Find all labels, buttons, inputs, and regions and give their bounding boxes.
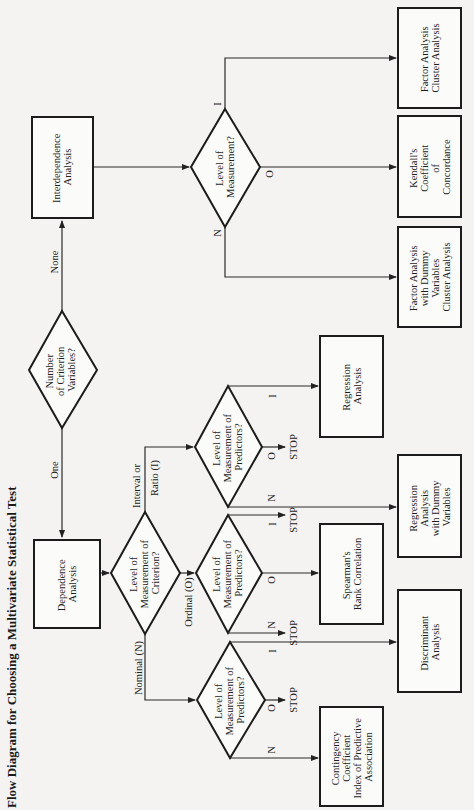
edge-interdep-i bbox=[225, 58, 396, 109]
decision-predictors-nominal: Level of Measurement of Predictors? bbox=[197, 642, 265, 758]
flow-diagram: Flow Diagram for Choosing a Multivariate… bbox=[0, 0, 474, 810]
stop-ordinal-i: STOP bbox=[288, 507, 299, 533]
label-ordinal: Ordinal (O) bbox=[183, 577, 195, 627]
result-contingency-coefficient: Contingency Coefficient Index of Predict… bbox=[320, 707, 383, 806]
svg-text:Number of Criterion: Number of Criterion Variables? bbox=[44, 344, 77, 396]
result-discriminant-analysis: Discriminant Analysis bbox=[398, 590, 461, 692]
edge-nominal bbox=[145, 634, 195, 700]
decision-predictors-ordinal: Level of Measurement of Predictors? bbox=[196, 515, 262, 633]
result-kendalls-coefficient: Kendall's Coefficient of Concordance bbox=[398, 116, 461, 217]
decision-level-of-criterion: Level of Measurement of Criterion? bbox=[111, 512, 180, 634]
label-nominal-i: I bbox=[267, 649, 278, 653]
label-one: One bbox=[49, 461, 60, 479]
label-interval-o: O bbox=[266, 452, 277, 460]
result-regression-analysis: Regression Analysis bbox=[320, 336, 383, 437]
svg-text:Factor Analysis Cluster: Factor Analysis Cluster Analysis bbox=[419, 23, 441, 92]
label-interval-i: I bbox=[267, 394, 278, 398]
label-interval-1: Interval or bbox=[131, 463, 142, 508]
decision-predictors-interval: Level of Measurement of Predictors? bbox=[195, 386, 262, 507]
label-nominal-o: O bbox=[266, 704, 277, 712]
result-spearmans-rank-correlation: Spearman's Rank Correlation bbox=[320, 524, 383, 624]
decision-number-of-criterion-variables: Number of Criterion Variables? bbox=[29, 311, 97, 428]
stop-interval-o: STOP bbox=[288, 434, 299, 460]
result-factor-analysis-dummy: Factor Analysis with Dummy Variables Clu… bbox=[398, 227, 461, 327]
svg-text:Regression Analysis: Regression Analysis bbox=[341, 361, 363, 410]
label-ordinal-i: I bbox=[267, 522, 278, 526]
label-interval-2: Ratio (I) bbox=[149, 460, 161, 496]
stop-nominal-o: STOP bbox=[288, 687, 299, 713]
label-interdep-i: I bbox=[212, 102, 223, 106]
label-interdep-o: O bbox=[264, 170, 275, 178]
label-none: None bbox=[49, 250, 60, 273]
label-interval-n: N bbox=[266, 494, 277, 502]
edge-interdep-n bbox=[225, 227, 396, 277]
label-ordinal-n: N bbox=[266, 621, 277, 629]
stop-ordinal-n: STOP bbox=[288, 620, 299, 646]
result-regression-dummy: Regression Analysis with Dummy Variables bbox=[398, 455, 461, 557]
label-ordinal-o: O bbox=[266, 576, 277, 584]
diagram-title: Flow Diagram for Choosing a Multivariate… bbox=[4, 486, 19, 808]
label-nominal-n: N bbox=[266, 746, 277, 754]
result-factor-cluster-analysis: Factor Analysis Cluster Analysis bbox=[398, 8, 461, 108]
process-dependence-analysis: Dependence Analysis bbox=[34, 540, 100, 628]
process-interdependence-analysis: Interdependence Analysis bbox=[32, 117, 93, 218]
decision-level-of-measurement: Level of Measurement? bbox=[191, 109, 260, 227]
label-interdep-n: N bbox=[212, 229, 223, 237]
label-nominal: Nominal (N) bbox=[133, 641, 145, 695]
